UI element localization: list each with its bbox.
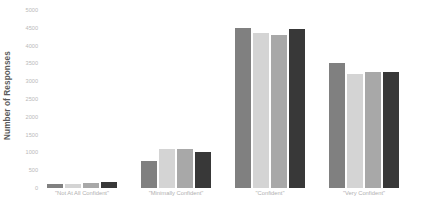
x-axis-tick-label: "Not At All Confident" <box>55 190 109 196</box>
y-axis-tick-label: 3000 <box>26 78 38 84</box>
y-axis-tick-label: 3500 <box>26 60 38 66</box>
y-axis-tick-label: 0 <box>35 185 38 191</box>
y-axis-tick-label: 2500 <box>26 96 38 102</box>
bar <box>47 184 63 188</box>
x-axis-tick-label: "Very Confident" <box>343 190 385 196</box>
plot-area <box>41 10 417 188</box>
bar <box>177 149 193 188</box>
bar <box>159 149 175 188</box>
bar <box>195 152 211 188</box>
y-axis-tick-labels: 0500100015002000250030003500400045005000 <box>14 0 40 213</box>
bar-group <box>235 10 305 188</box>
bar <box>65 184 81 188</box>
bar <box>253 33 269 188</box>
y-axis-title-label: Number of Responses <box>3 51 12 140</box>
bar-group <box>47 10 117 188</box>
bar <box>383 72 399 188</box>
y-axis-tick-label: 500 <box>29 167 38 173</box>
bar-group <box>329 10 399 188</box>
bar-chart: Number of Responses 05001000150020002500… <box>0 0 421 213</box>
y-axis-tick-label: 1500 <box>26 132 38 138</box>
bar <box>347 74 363 188</box>
bar <box>235 28 251 188</box>
y-axis-title: Number of Responses <box>0 0 14 190</box>
y-axis-tick-label: 2000 <box>26 114 38 120</box>
x-axis-tick-label: "Confident" <box>256 190 285 196</box>
bar <box>271 35 287 188</box>
y-axis-tick-label: 5000 <box>26 7 38 13</box>
bar <box>141 161 157 188</box>
y-axis-tick-label: 4500 <box>26 25 38 31</box>
bar <box>365 72 381 188</box>
x-axis-tick-labels: "Not At All Confident""Minimally Confide… <box>41 190 417 210</box>
bar <box>101 182 117 188</box>
bar <box>83 183 99 188</box>
y-axis-tick-label: 1000 <box>26 149 38 155</box>
bar-group <box>141 10 211 188</box>
y-axis-tick-label: 4000 <box>26 43 38 49</box>
bar <box>289 29 305 188</box>
x-axis-tick-label: "Minimally Confident" <box>149 190 204 196</box>
bar <box>329 63 345 188</box>
